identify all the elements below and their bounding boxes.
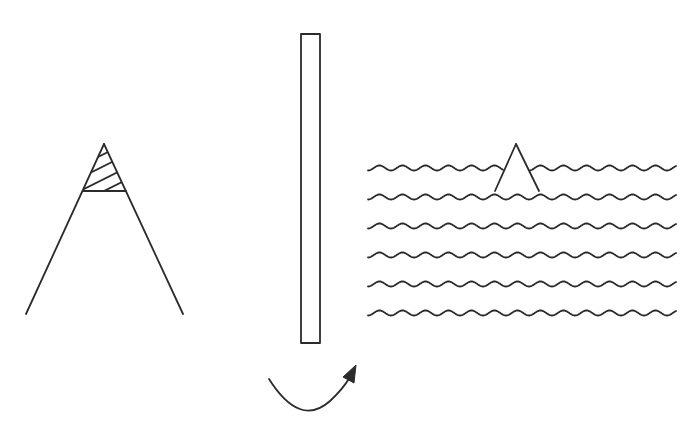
cone-figure: [26, 144, 183, 314]
cone-left-edge: [26, 144, 104, 314]
wave-line: [368, 166, 503, 171]
cone-right-edge: [104, 144, 183, 314]
wave-line: [368, 311, 676, 316]
diagram-canvas: [0, 0, 696, 447]
wave-line: [368, 282, 676, 287]
vertical-bar: [301, 34, 320, 343]
wave-line: [530, 166, 676, 171]
rotation-arrow-head: [343, 365, 356, 383]
water-figure: [368, 144, 676, 316]
wave-line: [368, 195, 676, 200]
protruding-tip: [495, 144, 539, 191]
wave-line: [368, 253, 676, 258]
wave-line: [368, 224, 676, 229]
rotation-arrow-shaft: [269, 377, 350, 411]
bar-figure: [269, 34, 356, 411]
wave-lines: [368, 166, 676, 316]
